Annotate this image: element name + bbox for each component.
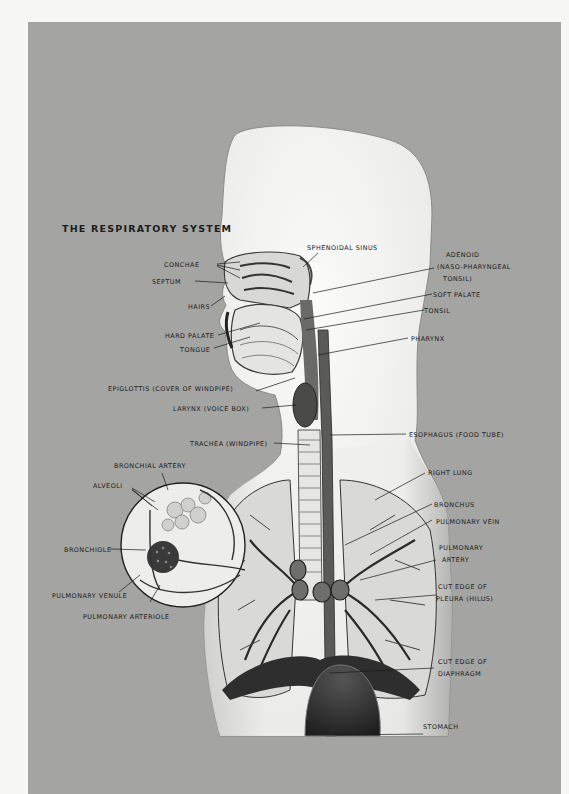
diagram-title: THE RESPIRATORY SYSTEM [62, 223, 232, 234]
label-bronchus: BRONCHUS [434, 500, 475, 510]
label-adenoid-line3: TONSIL) [443, 274, 472, 284]
label-adenoid-line2: (NASO-PHARYNGEAL [437, 262, 511, 272]
label-esophagus: ESOPHAGUS (FOOD TUBE) [409, 430, 504, 440]
label-pulmonary-venule: PULMONARY VENULE [52, 591, 127, 601]
label-trachea: TRACHEA (WINDPIPE) [190, 439, 268, 449]
label-stomach: STOMACH [423, 722, 459, 732]
label-pulmonary-vein: PULMONARY VEIN [436, 517, 500, 527]
label-cut-edge-pleura-line2: PLEURA (HILUS) [436, 594, 493, 604]
label-soft-palate: SOFT PALATE [433, 290, 480, 300]
label-pulmonary-arteriole: PULMONARY ARTERIOLE [83, 612, 170, 622]
label-pulmonary-artery-line1: PULMONARY [439, 543, 483, 553]
label-cut-edge-diaphragm-line2: DIAPHRAGM [438, 669, 481, 679]
label-bronchial-artery: BRONCHIAL ARTERY [114, 461, 186, 471]
label-tongue: TONGUE [180, 345, 210, 355]
alveoli-inset [121, 483, 245, 607]
label-sphenoidal-sinus: SPHENOIDAL SINUS [307, 243, 378, 253]
label-alveoli: ALVEOLI [93, 481, 123, 491]
label-hard-palate: HARD PALATE [165, 331, 214, 341]
label-pulmonary-artery-line2: ARTERY [442, 555, 469, 565]
label-septum: SEPTUM [152, 277, 181, 287]
label-larynx: LARYNX (VOICE BOX) [173, 404, 249, 414]
respiratory-illustration [0, 0, 569, 794]
label-cut-edge-pleura-line1: CUT EDGE OF [438, 582, 487, 592]
label-cut-edge-diaphragm-line1: CUT EDGE OF [438, 657, 487, 667]
label-adenoid-line1: ADENOID [446, 250, 479, 260]
label-bronchiole: BRONCHIOLE [64, 545, 111, 555]
label-conchae: CONCHAE [164, 260, 199, 270]
label-epiglottis: EPIGLOTTIS (COVER OF WINDPIPE) [108, 384, 233, 394]
label-tonsil: TONSIL [424, 306, 450, 316]
label-pharynx: PHARYNX [411, 334, 445, 344]
label-right-lung: RIGHT LUNG [428, 468, 473, 478]
label-hairs: HAIRS [188, 302, 210, 312]
